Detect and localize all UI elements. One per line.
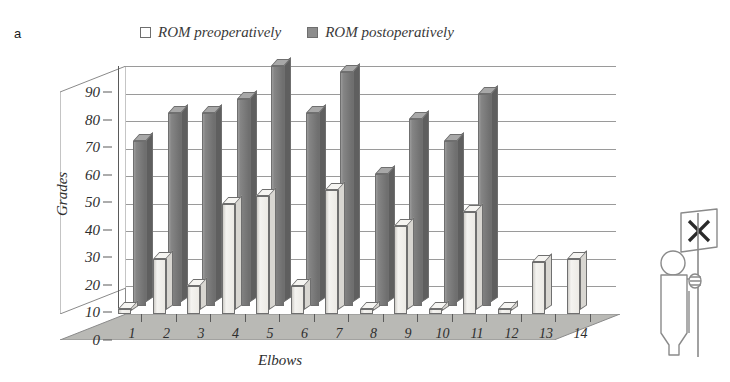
y-axis-tick-label: 0 (70, 332, 100, 349)
x-axis-tick-mark (279, 314, 280, 322)
x-axis: 1234567891011121314 (118, 318, 623, 344)
x-axis-tick-mark (348, 314, 349, 322)
bar-side (595, 140, 602, 302)
bar-face (375, 174, 388, 306)
y-axis-tick-label: 90 (70, 84, 100, 101)
bar-group (325, 66, 357, 314)
bar-rom-preoperatively (222, 204, 235, 314)
bar-rom-preoperatively (256, 196, 269, 314)
bar-face (394, 226, 407, 314)
y-axis-tick-mark (103, 257, 112, 258)
y-axis-tick-mark (103, 202, 112, 203)
x-axis-tick-label: 1 (129, 326, 136, 342)
bar-group (463, 66, 495, 314)
bar-face (567, 259, 580, 314)
bar-side (284, 58, 291, 302)
x-axis-tick-label: 8 (370, 326, 377, 342)
bar-side (476, 203, 483, 310)
bar-face (306, 113, 319, 306)
bar-rom-preoperatively (291, 286, 304, 314)
x-axis-tick-mark (486, 314, 487, 322)
x-axis-tick-label: 4 (232, 326, 239, 342)
legend-item-preoperative: ROM preoperatively (140, 24, 281, 41)
bar-group (498, 66, 530, 314)
x-axis-tick-mark (452, 314, 453, 322)
bar-face (187, 286, 200, 314)
bar-rom-postoperatively (444, 141, 457, 306)
bar-side (353, 63, 360, 302)
chart-legend: ROM preoperatively ROM postoperatively (140, 24, 454, 41)
bar-face (513, 149, 526, 306)
legend-swatch-postoperative-icon (307, 27, 318, 38)
bar-rom-preoperatively (187, 286, 200, 314)
x-axis-tick-mark (210, 314, 211, 322)
legend-swatch-preoperative-icon (140, 27, 151, 38)
bar-rom-postoperatively (133, 141, 146, 306)
x-axis-tick-mark (417, 314, 418, 322)
x-axis-tick-mark (314, 314, 315, 322)
x-axis-tick-label: 9 (405, 326, 412, 342)
bar-rom-preoperatively (360, 309, 373, 315)
bar-side (181, 104, 188, 302)
bar-top (547, 106, 566, 113)
y-axis-tick-label: 50 (70, 194, 100, 211)
bar-rom-preoperatively (532, 262, 545, 314)
bar-face (222, 204, 235, 314)
bar-rom-preoperatively (429, 309, 442, 315)
x-axis-tick-mark (141, 314, 142, 322)
bar-group (567, 66, 599, 314)
x-axis-tick-label: 13 (539, 326, 553, 342)
person-with-x-flag-icon (645, 205, 725, 360)
bar-face (291, 286, 304, 314)
bar-group (256, 66, 288, 314)
bar-face (118, 309, 131, 315)
bar-rom-preoperatively (567, 259, 580, 314)
y-axis-tick-mark (103, 119, 112, 120)
x-axis-tick-mark (245, 314, 246, 322)
y-axis-tick-mark (103, 340, 112, 341)
bar-side (580, 250, 587, 310)
bar-face (202, 113, 215, 306)
bar-rom-preoperatively (153, 259, 166, 314)
y-axis: Grades 0102030405060708090 (60, 66, 126, 314)
legend-item-postoperative: ROM postoperatively (307, 24, 454, 41)
y-axis-tick-mark (103, 284, 112, 285)
bar-group (153, 66, 185, 314)
x-axis-tick-mark (590, 314, 591, 322)
bar-rom-preoperatively (325, 190, 338, 314)
x-axis-tick-mark (383, 314, 384, 322)
y-axis-tick-label: 30 (70, 249, 100, 266)
x-axis-tick-mark (176, 314, 177, 322)
legend-label-preoperative: ROM preoperatively (158, 24, 281, 41)
x-axis-tick-label: 11 (471, 326, 484, 342)
y-axis-tick-mark (103, 312, 112, 313)
y-axis-tick-label: 60 (70, 166, 100, 183)
bar-rom-postoperatively (513, 149, 526, 306)
y-axis-tick-mark (103, 174, 112, 175)
figure-panel: a ROM preoperatively ROM postoperatively… (0, 0, 730, 382)
bar-group (394, 66, 426, 314)
y-axis-tick-label: 70 (70, 139, 100, 156)
y-axis-tick-label: 80 (70, 111, 100, 128)
y-axis-tick-mark (103, 147, 112, 148)
bar-top (513, 142, 532, 149)
y-axis-tick-label: 40 (70, 221, 100, 238)
bar-face (444, 141, 457, 306)
bar-top (582, 142, 601, 149)
bar-group (222, 66, 254, 314)
bar-face (325, 190, 338, 314)
x-axis-tick-mark (555, 314, 556, 322)
bar-face (463, 212, 476, 314)
bar-face (153, 259, 166, 314)
bar-side (407, 217, 414, 310)
x-axis-tick-mark (521, 314, 522, 322)
panel-letter: a (14, 26, 21, 41)
x-axis-tick-label: 2 (163, 326, 170, 342)
bar-rom-preoperatively (463, 212, 476, 314)
bar-group (291, 66, 323, 314)
bar-face (532, 262, 545, 314)
bar-rom-postoperatively (202, 113, 215, 306)
x-axis-tick-label: 12 (505, 326, 519, 342)
x-axis-tick-label: 10 (436, 326, 450, 342)
bar-groups (118, 66, 623, 314)
